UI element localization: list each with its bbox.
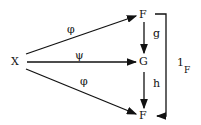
label-phi-bottom: φ <box>80 76 88 87</box>
label-identity: 1 <box>177 57 184 68</box>
label-identity-subscript: F <box>184 66 190 75</box>
diagram-arrows <box>0 0 201 125</box>
label-h: h <box>153 78 160 89</box>
node-f-top: F <box>139 9 147 20</box>
label-phi-top: φ <box>67 24 75 35</box>
label-psi: ψ <box>75 50 84 61</box>
node-f-bottom: F <box>139 110 147 121</box>
node-x: X <box>11 56 19 67</box>
label-g: g <box>153 28 160 39</box>
node-g: G <box>139 56 148 67</box>
